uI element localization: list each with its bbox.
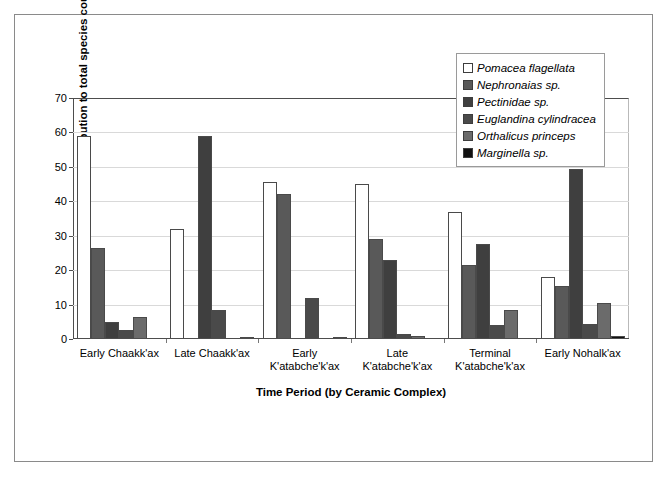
legend-item-label: Marginella sp. — [477, 147, 549, 159]
y-tick-label: 30 — [55, 230, 67, 242]
x-tick-label: LateK'atabche'k'ax — [362, 347, 432, 373]
legend-item-label: Nephronaias sp. — [477, 79, 561, 91]
x-tick-mark — [536, 339, 537, 343]
legend-swatch-icon — [463, 63, 473, 73]
legend-item-label: Pomacea flagellata — [477, 62, 575, 74]
legend-swatch-icon — [463, 114, 473, 124]
y-tick-label: 60 — [55, 126, 67, 138]
y-tick-label: 70 — [55, 92, 67, 104]
bar — [569, 169, 583, 339]
x-axis-title: Time Period (by Ceramic Complex) — [73, 386, 629, 398]
legend-item: Euglandina cylindracea — [463, 110, 596, 127]
x-tick-label-line: Early Chaakk'ax — [80, 347, 159, 360]
x-tick-mark — [444, 339, 445, 343]
legend-item: Pectinidae sp. — [463, 93, 596, 110]
x-tick-label-line: Late Chaakk'ax — [174, 347, 249, 360]
x-tick-label-line: K'atabche'k'ax — [270, 360, 340, 373]
bar-group — [258, 98, 351, 339]
bar-group — [166, 98, 259, 339]
bar — [462, 265, 476, 339]
legend-item: Nephronaias sp. — [463, 76, 596, 93]
bar-group — [73, 98, 166, 339]
bar — [105, 322, 119, 339]
bar-group — [351, 98, 444, 339]
x-tick-label-line: Late — [362, 347, 432, 360]
bar — [504, 310, 518, 339]
bar — [476, 244, 490, 339]
x-tick-label: EarlyK'atabche'k'ax — [270, 347, 340, 373]
bar — [170, 229, 184, 339]
bar — [212, 310, 226, 339]
x-tick-label-line: Terminal — [455, 347, 525, 360]
legend-item: Marginella sp. — [463, 144, 596, 161]
legend-item-label: Orthalicus princeps — [477, 130, 575, 142]
y-tick-label: 40 — [55, 195, 67, 207]
bar — [277, 194, 291, 339]
legend-swatch-icon — [463, 80, 473, 90]
x-tick-label: Early Nohalk'ax — [545, 347, 621, 360]
x-tick-label-line: Early Nohalk'ax — [545, 347, 621, 360]
y-tick-label: 0 — [61, 333, 67, 345]
y-tick-label: 50 — [55, 161, 67, 173]
y-tick-label: 10 — [55, 299, 67, 311]
legend-item: Pomacea flagellata — [463, 59, 596, 76]
x-tick-label: Late Chaakk'ax — [174, 347, 249, 360]
x-tick-label-line: Early — [270, 347, 340, 360]
bar — [355, 184, 369, 339]
y-tick-label: 20 — [55, 264, 67, 276]
bar — [91, 248, 105, 339]
bar — [448, 212, 462, 339]
legend-swatch-icon — [463, 148, 473, 158]
x-tick-mark — [258, 339, 259, 343]
legend-swatch-icon — [463, 131, 473, 141]
y-tick-mark — [69, 339, 73, 340]
legend-swatch-icon — [463, 97, 473, 107]
bar — [263, 182, 277, 339]
bar — [383, 260, 397, 339]
x-tick-label: Early Chaakk'ax — [80, 347, 159, 360]
chart-figure: Percent contribution to total species co… — [14, 14, 653, 462]
bar — [305, 298, 319, 339]
bar — [555, 286, 569, 339]
x-tick-mark — [166, 339, 167, 343]
legend-item-label: Pectinidae sp. — [477, 96, 549, 108]
bar — [369, 239, 383, 339]
legend: Pomacea flagellataNephronaias sp.Pectini… — [456, 53, 605, 167]
bar — [597, 303, 611, 339]
x-tick-label-line: K'atabche'k'ax — [362, 360, 432, 373]
bar — [77, 136, 91, 339]
legend-item-label: Euglandina cylindracea — [477, 113, 596, 125]
x-tick-label-line: K'atabche'k'ax — [455, 360, 525, 373]
x-tick-mark — [351, 339, 352, 343]
bar — [198, 136, 212, 339]
bar — [541, 277, 555, 339]
bar — [133, 317, 147, 339]
x-tick-label: TerminalK'atabche'k'ax — [455, 347, 525, 373]
legend-item: Orthalicus princeps — [463, 127, 596, 144]
